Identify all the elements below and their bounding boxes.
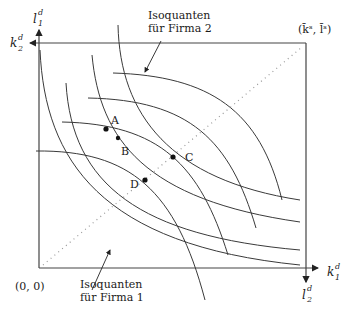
- svg-text:C: C: [185, 151, 193, 164]
- svg-text:Isoquanten: Isoquanten: [148, 9, 210, 22]
- svg-text:A: A: [110, 114, 120, 127]
- svg-text:Isoquanten: Isoquanten: [80, 278, 142, 291]
- svg-text:für Firma 2: für Firma 2: [148, 22, 212, 35]
- svg-text:d: d: [38, 8, 43, 17]
- point-C: C: [170, 151, 193, 164]
- svg-text:2: 2: [306, 295, 312, 304]
- annotation-firm2: Isoquanten für Firma 2: [148, 9, 212, 35]
- axis-label-l1d: l 1 d: [33, 8, 43, 28]
- svg-text:d: d: [335, 262, 340, 271]
- svg-text:l: l: [33, 12, 37, 26]
- edgeworth-box-diagram: A B C D Isoquanten für Firma 2 Isoquante…: [0, 0, 346, 322]
- svg-text:für Firma 1: für Firma 1: [80, 291, 144, 304]
- svg-text:k: k: [10, 36, 17, 50]
- annotation-arrow-firm2: [145, 41, 161, 72]
- axis-label-k2d: k 2 d: [10, 33, 23, 53]
- svg-text:l: l: [302, 288, 306, 302]
- svg-text:2: 2: [17, 44, 23, 53]
- origin-firm1-label: (0, 0): [15, 280, 45, 293]
- svg-text:1: 1: [335, 273, 340, 282]
- isoquants-firm2: [36, 73, 282, 300]
- svg-text:1: 1: [38, 19, 43, 28]
- svg-text:d: d: [307, 284, 312, 293]
- axis-label-l2d: l 2 d: [302, 284, 312, 304]
- origin-firm2-label: (k̄ˢ, l̄ˢ): [298, 23, 331, 36]
- svg-text:B: B: [121, 145, 129, 158]
- svg-text:D: D: [130, 178, 139, 191]
- annotation-firm1: Isoquanten für Firma 1: [80, 278, 144, 304]
- svg-text:k: k: [327, 265, 334, 279]
- point-B: B: [116, 136, 129, 158]
- svg-text:d: d: [18, 33, 23, 42]
- axis-label-k1d: k 1 d: [327, 262, 340, 282]
